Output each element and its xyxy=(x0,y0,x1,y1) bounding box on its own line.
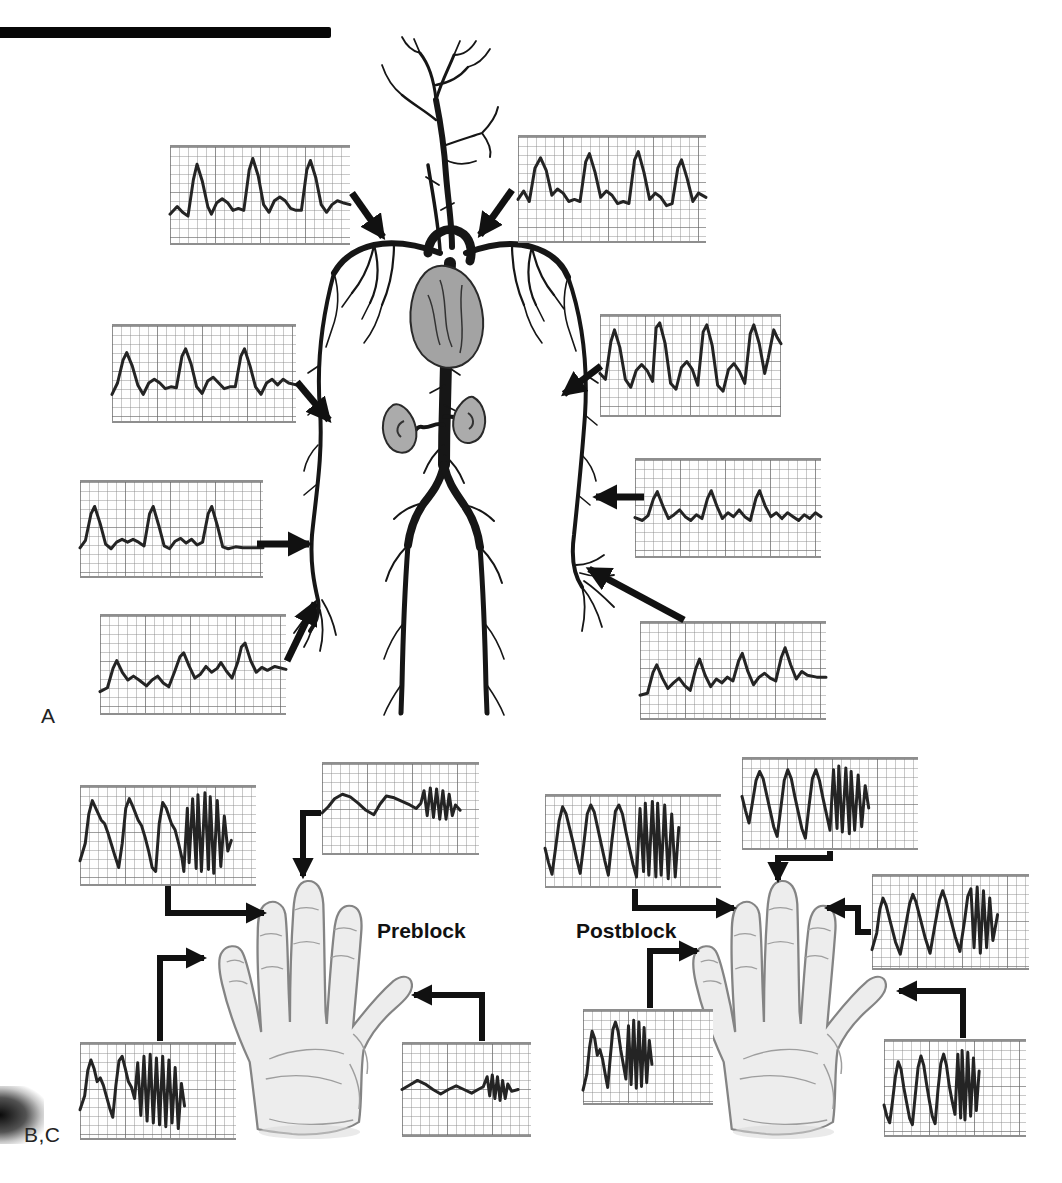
waveform-trace xyxy=(100,616,286,713)
right-leg-artery xyxy=(480,547,487,713)
waveform-trace xyxy=(80,1044,236,1138)
connector-preblock-thumb xyxy=(414,995,482,1041)
panel-a-label: A xyxy=(41,704,56,728)
waveform-chart-a8 xyxy=(640,621,826,720)
kidney-right xyxy=(453,397,485,443)
waveform-trace xyxy=(742,759,918,848)
waveform-chart-postblock-middle xyxy=(742,757,918,850)
waveform-chart-a5 xyxy=(100,614,286,715)
connector-postblock-thumb xyxy=(899,991,963,1038)
connector-preblock-little xyxy=(160,958,204,1041)
preblock-hand xyxy=(206,874,413,1139)
waveform-trace xyxy=(600,316,781,415)
waveform-trace xyxy=(583,1011,713,1103)
left-arm-artery xyxy=(310,273,334,631)
waveform-chart-a3 xyxy=(112,324,296,423)
waveform-trace xyxy=(545,796,721,886)
preblock-label: Preblock xyxy=(377,919,466,943)
waveform-chart-preblock-ring xyxy=(80,785,256,886)
waveform-chart-postblock-little xyxy=(583,1009,713,1105)
waveform-chart-a4 xyxy=(80,480,263,578)
waveform-chart-a1 xyxy=(170,145,350,245)
waveform-chart-preblock-little xyxy=(80,1042,236,1140)
waveform-chart-postblock-ring xyxy=(545,794,721,888)
left-leg-artery xyxy=(401,545,408,713)
waveform-trace xyxy=(640,623,826,718)
waveform-trace xyxy=(80,787,256,884)
right-arm-artery xyxy=(568,277,586,587)
waveform-trace xyxy=(518,137,706,241)
kidney-left xyxy=(383,404,416,452)
figure-page: A Preblock Postblock B,C xyxy=(0,0,1062,1183)
connector-preblock-middle xyxy=(303,813,321,876)
waveform-trace xyxy=(112,326,296,421)
waveform-chart-preblock-middle xyxy=(322,762,479,855)
waveform-trace xyxy=(872,876,1029,968)
waveform-trace xyxy=(402,1044,531,1135)
postblock-label: Postblock xyxy=(576,919,676,943)
waveform-trace xyxy=(635,460,821,556)
waveform-chart-postblock-index xyxy=(872,874,1029,970)
waveform-trace xyxy=(884,1041,1026,1135)
waveform-trace xyxy=(322,764,479,853)
scan-artifact-left-smudge xyxy=(0,1086,44,1144)
waveform-chart-a7 xyxy=(635,458,821,558)
heart xyxy=(410,266,483,368)
scan-artifact-top-bar xyxy=(0,27,331,38)
waveform-chart-preblock-thumb xyxy=(402,1042,531,1137)
hand-outline xyxy=(693,881,886,1135)
waveform-chart-a2 xyxy=(518,135,706,243)
waveform-trace xyxy=(170,147,350,243)
waveform-chart-postblock-thumb xyxy=(884,1039,1026,1137)
waveform-chart-a6 xyxy=(600,314,781,417)
waveform-trace xyxy=(80,482,263,576)
